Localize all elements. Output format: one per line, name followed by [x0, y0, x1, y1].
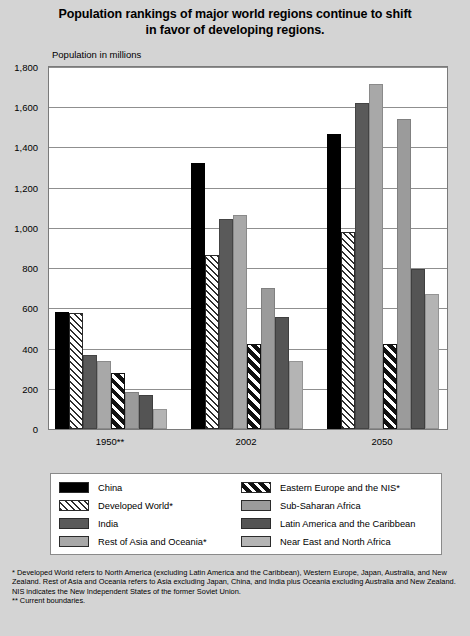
x-axis-tick-label: 2002 — [235, 436, 256, 447]
y-axis-tick-labels: 02004006008001,0001,2001,4001,6001,800 — [0, 66, 44, 430]
bar-india — [219, 219, 233, 429]
footnote-star: * Developed World refers to North Americ… — [12, 568, 462, 596]
legend-label: Eastern Europe and the NIS* — [280, 483, 400, 493]
bar-subsaharan — [261, 288, 275, 429]
legend-item-neareast[interactable]: Near East and North Africa — [241, 533, 435, 550]
bar-china — [327, 134, 341, 429]
legend-label: Near East and North Africa — [280, 537, 391, 547]
page-title: Population rankings of major world regio… — [0, 6, 470, 38]
legend-item-restasia[interactable]: Rest of Asia and Oceania* — [59, 533, 241, 550]
legend-item-india[interactable]: India — [59, 515, 241, 532]
title-line-1: Population rankings of major world regio… — [0, 6, 470, 22]
bar-neareast — [153, 409, 167, 429]
bar-china — [191, 163, 205, 429]
legend-swatch-china — [59, 482, 89, 493]
bar-eeurope — [111, 373, 125, 429]
footnote-doublestar: ** Current boundaries. — [12, 596, 462, 605]
y-axis-tick-label: 1,000 — [14, 222, 38, 233]
bar-series-container — [49, 67, 447, 429]
bar-india — [83, 355, 97, 429]
legend-swatch-neareast — [241, 536, 271, 547]
legend-swatch-india — [59, 518, 89, 529]
bar-latam — [139, 395, 153, 429]
legend-item-developed[interactable]: Developed World* — [59, 497, 241, 514]
footnotes: * Developed World refers to North Americ… — [12, 568, 462, 606]
legend-swatch-eeurope — [241, 482, 271, 493]
chart-plot-area — [48, 66, 448, 430]
bar-developed — [205, 255, 219, 429]
legend-label: India — [98, 519, 118, 529]
bar-china — [55, 312, 69, 429]
legend-item-eeurope[interactable]: Eastern Europe and the NIS* — [241, 479, 435, 496]
y-axis-caption: Population in millions — [52, 49, 141, 60]
bar-neareast — [425, 294, 439, 429]
legend-label: Rest of Asia and Oceania* — [98, 537, 207, 547]
legend-swatch-latam — [241, 518, 271, 529]
legend-item-china[interactable]: China — [59, 479, 241, 496]
y-axis-tick-label: 1,400 — [14, 142, 38, 153]
legend-column-left: ChinaDeveloped World*IndiaRest of Asia a… — [59, 479, 241, 550]
y-axis-tick-label: 400 — [22, 343, 38, 354]
bar-latam — [275, 317, 289, 429]
legend-swatch-restasia — [59, 536, 89, 547]
legend-column-right: Eastern Europe and the NIS*Sub-Saharan A… — [241, 479, 435, 550]
x-axis-tick-labels: 1950**20022050 — [48, 436, 448, 454]
bar-latam — [411, 269, 425, 429]
legend-swatch-subsaharan — [241, 500, 271, 511]
legend-label: China — [98, 483, 122, 493]
bar-developed — [69, 313, 83, 429]
bar-restasia — [97, 361, 111, 429]
y-axis-tick-label: 1,600 — [14, 102, 38, 113]
bar-india — [355, 103, 369, 429]
bar-restasia — [233, 215, 247, 429]
y-axis-tick-label: 1,800 — [14, 62, 38, 73]
legend-label: Sub-Saharan Africa — [280, 501, 361, 511]
legend-swatch-developed — [59, 500, 89, 511]
legend-label: Developed World* — [98, 501, 173, 511]
legend-item-subsaharan[interactable]: Sub-Saharan Africa — [241, 497, 435, 514]
bar-group — [327, 67, 455, 429]
bar-group — [55, 67, 183, 429]
legend-label: Latin America and the Caribbean — [280, 519, 415, 529]
bar-restasia — [369, 84, 383, 429]
legend-item-latam[interactable]: Latin America and the Caribbean — [241, 515, 435, 532]
bar-subsaharan — [125, 392, 139, 429]
bar-subsaharan — [397, 119, 411, 429]
y-axis-tick-label: 1,200 — [14, 182, 38, 193]
x-axis-tick-label: 2050 — [371, 436, 392, 447]
bar-group — [191, 67, 319, 429]
y-axis-tick-label: 800 — [22, 263, 38, 274]
y-axis-tick-label: 200 — [22, 383, 38, 394]
y-axis-tick-label: 0 — [33, 424, 38, 435]
bar-eeurope — [383, 344, 397, 429]
y-axis-tick-label: 600 — [22, 303, 38, 314]
chart-legend: ChinaDeveloped World*IndiaRest of Asia a… — [50, 473, 442, 555]
bar-developed — [341, 232, 355, 429]
bar-eeurope — [247, 344, 261, 429]
title-line-2: in favor of developing regions. — [0, 22, 470, 38]
bar-neareast — [289, 361, 303, 429]
x-axis-tick-label: 1950** — [96, 436, 125, 447]
